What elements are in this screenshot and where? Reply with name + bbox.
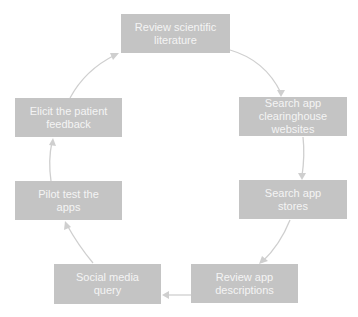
step-label: Review scientific literature xyxy=(131,21,220,47)
step-elicit-feedback: Elicit the patient feedback xyxy=(15,98,122,137)
step-social-media-query: Social media query xyxy=(54,264,161,304)
step-label: Social media query xyxy=(64,271,151,297)
step-review-descriptions: Review app descriptions xyxy=(191,264,298,303)
step-search-clearinghouse: Search app clearinghouse websites xyxy=(239,97,347,136)
arrow-social-to-pilot xyxy=(67,225,93,263)
step-search-app-stores: Search app stores xyxy=(239,180,347,219)
arrowhead-icon xyxy=(49,138,56,146)
arrow-literature-to-clearinghouse xyxy=(230,50,281,93)
step-label: Review app descriptions xyxy=(201,271,288,297)
step-label: Elicit the patient feedback xyxy=(25,105,112,131)
arrowhead-icon xyxy=(298,173,306,180)
arrow-pilot-to-elicit xyxy=(50,142,52,181)
arrowhead-icon xyxy=(162,291,169,299)
arrowhead-icon xyxy=(64,221,71,230)
step-label: Search app clearinghouse websites xyxy=(249,97,337,136)
step-pilot-test: Pilot test the apps xyxy=(15,181,122,220)
step-review-literature: Review scientific literature xyxy=(121,14,230,53)
step-label: Pilot test the apps xyxy=(25,188,112,214)
step-label: Search app stores xyxy=(249,187,337,213)
arrow-appstores-to-descriptions xyxy=(262,220,290,262)
arrow-elicit-to-literature xyxy=(70,55,115,98)
arrow-clearinghouse-to-appstores xyxy=(302,137,304,176)
arrowhead-icon xyxy=(277,90,285,97)
